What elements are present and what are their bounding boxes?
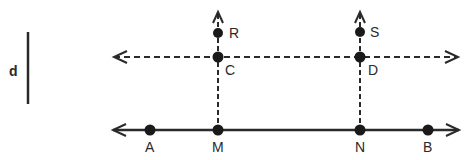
point-b	[423, 125, 434, 136]
label-r: R	[229, 25, 239, 41]
point-d	[355, 52, 366, 63]
geometry-diagram: d R C S D A M N B	[0, 0, 474, 160]
label-d: D	[368, 62, 378, 78]
label-s: S	[370, 24, 379, 40]
point-s	[355, 27, 365, 37]
point-c	[213, 52, 224, 63]
segment-d-label: d	[9, 63, 18, 79]
point-r	[213, 28, 223, 38]
label-a: A	[145, 139, 155, 155]
label-c: C	[225, 62, 235, 78]
point-n	[355, 125, 366, 136]
point-m	[213, 125, 224, 136]
label-n: N	[355, 139, 365, 155]
point-a	[145, 125, 156, 136]
label-b: B	[423, 139, 432, 155]
label-m: M	[212, 139, 224, 155]
